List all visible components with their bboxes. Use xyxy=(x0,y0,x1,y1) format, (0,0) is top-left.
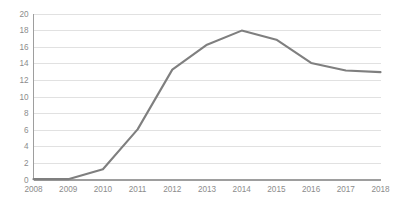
x-tick-label: 2010 xyxy=(94,185,113,194)
chart-canvas: 02468101214161820 2008200920102011201220… xyxy=(0,0,399,207)
x-tick-label: 2012 xyxy=(163,185,182,194)
chart-background xyxy=(0,0,399,207)
y-tick-label: 8 xyxy=(24,109,29,118)
x-tick-label: 2011 xyxy=(129,185,147,194)
x-tick-label: 2008 xyxy=(24,185,43,194)
y-tick-label: 18 xyxy=(19,26,29,35)
y-tick-label: 16 xyxy=(19,43,29,52)
y-tick-label: 12 xyxy=(19,76,29,85)
x-tick-label: 2014 xyxy=(233,185,252,194)
y-tick-label: 2 xyxy=(24,159,29,168)
y-tick-label: 4 xyxy=(24,142,29,151)
x-tick-label: 2018 xyxy=(371,185,390,194)
y-tick-label: 6 xyxy=(24,126,29,135)
x-tick-label: 2017 xyxy=(337,185,356,194)
y-tick-label: 10 xyxy=(19,93,29,102)
line-chart: 02468101214161820 2008200920102011201220… xyxy=(0,0,399,207)
x-tick-label: 2013 xyxy=(198,185,217,194)
y-tick-label: 20 xyxy=(19,10,29,19)
x-tick-label: 2009 xyxy=(59,185,78,194)
x-tick-label: 2016 xyxy=(302,185,321,194)
y-tick-label: 14 xyxy=(19,59,29,68)
x-tick-label: 2015 xyxy=(267,185,286,194)
y-tick-label: 0 xyxy=(24,176,29,185)
